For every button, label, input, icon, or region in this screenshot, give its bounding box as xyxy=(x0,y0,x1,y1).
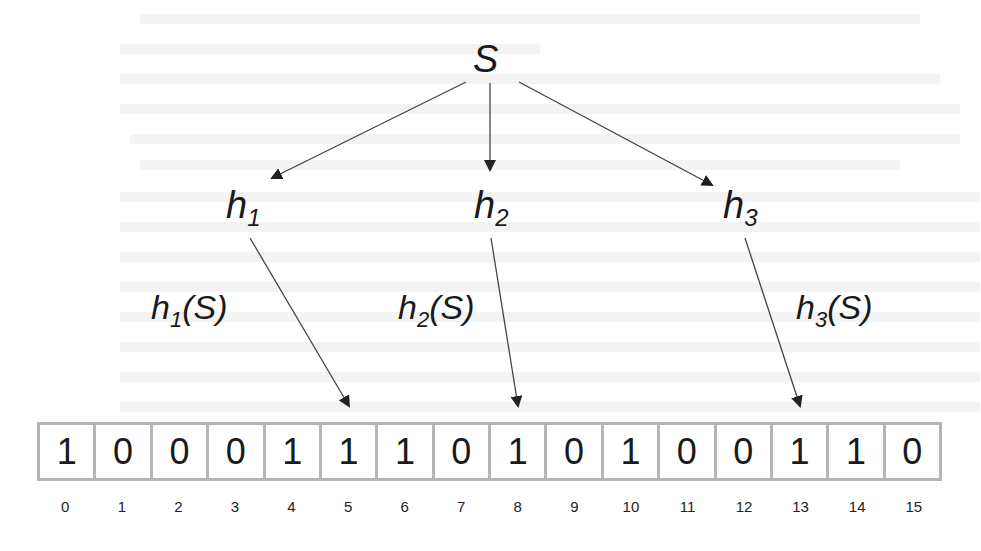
mapping-label-h2-arg: (S) xyxy=(429,288,474,326)
bit-cell-11: 0 xyxy=(660,425,713,478)
arrow-h1-to-bit5 xyxy=(250,238,349,406)
mapping-label-h1-arg: (S) xyxy=(182,288,227,326)
mapping-label-h1: h1(S) xyxy=(151,290,228,331)
bit-index-15: 15 xyxy=(885,498,942,515)
bit-cell-0: 1 xyxy=(40,425,93,478)
bit-cell-5: 1 xyxy=(322,425,375,478)
bit-cell-6: 1 xyxy=(378,425,431,478)
bit-index-3: 3 xyxy=(207,498,264,515)
bit-index-0: 0 xyxy=(37,498,94,515)
bit-cell-3: 0 xyxy=(209,425,262,478)
bit-index-8: 8 xyxy=(490,498,547,515)
bit-index-11: 11 xyxy=(659,498,716,515)
arrow-s-to-h3 xyxy=(519,82,712,185)
hash-node-h1-sub: 1 xyxy=(247,204,260,231)
mapping-label-h3: h3(S) xyxy=(796,290,873,331)
hash-node-h2-name: h xyxy=(474,184,495,226)
bit-cell-13: 1 xyxy=(773,425,826,478)
mapping-label-h1-name: h xyxy=(151,288,170,326)
bit-cell-9: 0 xyxy=(547,425,600,478)
arrow-h3-to-bit13 xyxy=(745,238,800,406)
bit-index-12: 12 xyxy=(716,498,773,515)
bit-index-7: 7 xyxy=(433,498,490,515)
bit-cell-4: 1 xyxy=(266,425,319,478)
bit-cell-15: 0 xyxy=(886,425,939,478)
arrow-h2-to-bit8 xyxy=(491,238,518,406)
bit-index-6: 6 xyxy=(376,498,433,515)
bit-index-13: 13 xyxy=(772,498,829,515)
mapping-label-h3-sub: 3 xyxy=(815,307,827,332)
bit-index-14: 14 xyxy=(829,498,886,515)
arrow-s-to-h1 xyxy=(272,82,466,178)
mapping-label-h3-name: h xyxy=(796,288,815,326)
hash-node-h2-sub: 2 xyxy=(495,204,508,231)
hash-node-h3-name: h xyxy=(723,184,744,226)
bit-index-5: 5 xyxy=(320,498,377,515)
bit-cell-10: 1 xyxy=(604,425,657,478)
mapping-label-h2-name: h xyxy=(398,288,417,326)
bit-index-4: 4 xyxy=(263,498,320,515)
bit-cell-14: 1 xyxy=(829,425,882,478)
bit-cell-2: 0 xyxy=(153,425,206,478)
mapping-label-h1-sub: 1 xyxy=(170,307,182,332)
bit-index-2: 2 xyxy=(150,498,207,515)
hash-node-h3: h3 xyxy=(723,186,758,230)
bit-index-row: 0 1 2 3 4 5 6 7 8 9 10 11 12 13 14 15 xyxy=(37,498,942,515)
hash-node-h1-name: h xyxy=(226,184,247,226)
mapping-label-h2-sub: 2 xyxy=(417,307,429,332)
mapping-label-h3-arg: (S) xyxy=(827,288,872,326)
mapping-label-h2: h2(S) xyxy=(398,290,475,331)
bit-cell-1: 0 xyxy=(96,425,149,478)
bit-cell-12: 0 xyxy=(717,425,770,478)
bit-array: 1 0 0 0 1 1 1 0 1 0 1 0 0 1 1 0 xyxy=(37,422,942,481)
bit-cell-7: 0 xyxy=(435,425,488,478)
hash-node-h3-sub: 3 xyxy=(744,204,757,231)
bit-index-9: 9 xyxy=(546,498,603,515)
hash-node-h2: h2 xyxy=(474,186,509,230)
hash-node-h1: h1 xyxy=(226,186,261,230)
bit-cell-8: 1 xyxy=(491,425,544,478)
bit-index-10: 10 xyxy=(603,498,660,515)
bit-index-1: 1 xyxy=(94,498,151,515)
source-node-s: S xyxy=(473,40,498,78)
